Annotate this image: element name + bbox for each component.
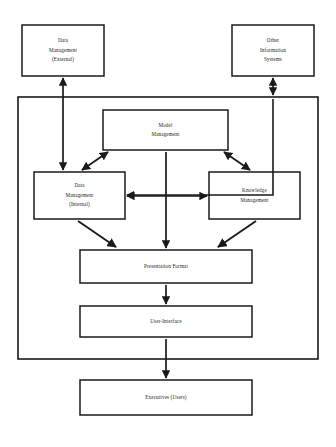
user-interface-box	[80, 306, 252, 337]
edge-model-to-knowledge	[224, 152, 250, 170]
data-management-internal-box	[34, 172, 125, 219]
presentation-format-box	[80, 250, 252, 283]
data-management-external-box	[22, 25, 104, 76]
other-information-systems-box	[232, 25, 314, 76]
edge-internal-to-model	[82, 152, 108, 170]
edge-internal-to-presentation	[78, 221, 116, 247]
edge-knowledge-to-presentation	[218, 221, 256, 247]
executives-users-box	[80, 380, 252, 415]
model-management-box	[103, 110, 228, 150]
diagram-canvas: Data Management (External) Other Informa…	[0, 0, 336, 447]
diagram-graphics	[0, 0, 336, 447]
